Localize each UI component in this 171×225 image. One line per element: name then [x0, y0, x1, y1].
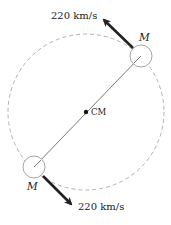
mass-label-lower: M — [26, 180, 38, 192]
binary-orbit-diagram: CM M 220 km/s M 220 km/s — [0, 0, 171, 225]
cm-label: CM — [91, 107, 107, 117]
velocity-arrow-lower — [43, 176, 71, 204]
mass-label-upper: M — [138, 31, 150, 43]
velocity-label-lower: 220 km/s — [78, 201, 124, 212]
center-of-mass-dot — [84, 110, 88, 114]
velocity-arrow-upper — [104, 20, 133, 48]
velocity-label-upper: 220 km/s — [51, 10, 97, 21]
